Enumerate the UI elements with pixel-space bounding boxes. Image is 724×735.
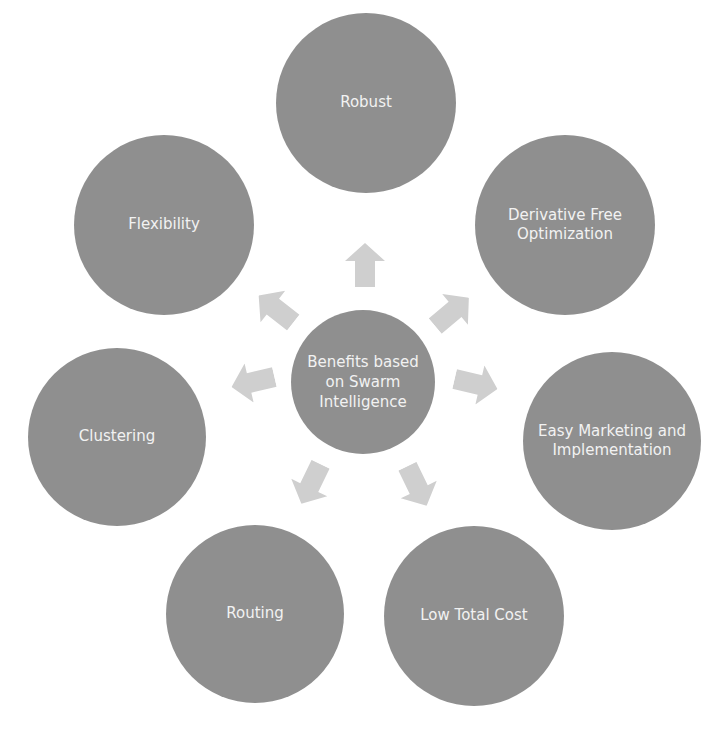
arrow-right-icon — [450, 360, 502, 409]
arrow-down-right-icon — [389, 457, 444, 514]
node-low-total-cost: Low Total Cost — [384, 526, 564, 706]
node-label: Clustering — [79, 427, 155, 447]
node-label: Derivative Free Optimization — [489, 206, 641, 245]
arrow-up-icon — [345, 243, 385, 287]
center-label: Benefits based on Swarm Intelligence — [301, 352, 425, 413]
node-clustering: Clustering — [28, 348, 206, 526]
center-hub: Benefits based on Swarm Intelligence — [291, 310, 435, 454]
node-robust: Robust — [276, 13, 456, 193]
arrow-up-right-icon — [422, 283, 481, 342]
arrow-left-icon — [227, 358, 279, 407]
arrow-down-left-icon — [283, 455, 338, 512]
node-routing: Routing — [166, 525, 344, 703]
node-flexibility: Flexibility — [74, 135, 254, 315]
node-label: Robust — [340, 93, 392, 113]
arrow-up-left-icon — [246, 280, 305, 339]
node-label: Easy Marketing and Implementation — [537, 422, 687, 461]
node-label: Low Total Cost — [420, 606, 527, 626]
node-easy-marketing-and-implementation: Easy Marketing and Implementation — [523, 352, 701, 530]
node-derivative-free-optimization: Derivative Free Optimization — [475, 135, 655, 315]
node-label: Flexibility — [128, 215, 200, 235]
node-label: Routing — [226, 604, 284, 624]
